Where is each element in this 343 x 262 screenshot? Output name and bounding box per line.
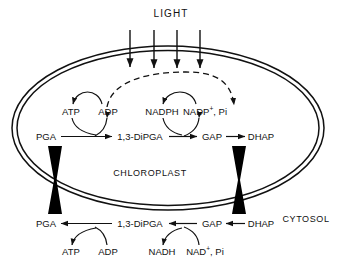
cytosol-dhap-label: DHAP — [248, 218, 274, 229]
cytosol-nad-consumption-arc — [184, 227, 199, 245]
chloroplast-nadp-base: NADP — [183, 106, 209, 117]
cytosol-dipga-label: 1,3-DiPGA — [117, 218, 163, 229]
cytosol-pga-label: PGA — [36, 218, 57, 229]
cytosol-nad-tail: , Pi — [210, 246, 224, 257]
chloroplast-dipga-label: 1,3-DiPGA — [117, 131, 163, 142]
cytosol-nad-label: NAD+, Pi — [186, 245, 224, 257]
light-energy-dashed-arc — [107, 72, 234, 107]
light-arrows — [130, 30, 200, 68]
light-label: LIGHT — [154, 8, 189, 19]
nadp-production-arc — [184, 118, 199, 136]
chloroplast-pga-label: PGA — [36, 131, 57, 142]
adp-to-atp-arc — [73, 92, 102, 104]
chloroplast-compartment-label: CHLOROPLAST — [113, 168, 187, 178]
cytosol-nadh-label: NADH — [149, 246, 176, 257]
cytosol-nadh-production-arc — [163, 228, 182, 245]
nadph-consumption-arc — [163, 118, 182, 135]
cytosol-gap-label: GAP — [202, 218, 222, 229]
chloroplast-atp-label: ATP — [62, 106, 80, 117]
cytosol-adp-consumption-arc — [95, 227, 107, 245]
cytosol-atp-production-arc — [72, 228, 96, 245]
nadp-to-nadph-arc — [163, 92, 196, 104]
chloroplast-shuttle-diagram: LIGHT ATP ADP NADPH NADP+, Pi PGA 1,3-Di… — [0, 0, 343, 262]
cytosol-adp-label: ADP — [98, 246, 118, 257]
chloroplast-nadp-tail: , Pi — [213, 106, 227, 117]
chloroplast-dhap-label: DHAP — [248, 131, 274, 142]
dhap-translocator — [232, 146, 246, 214]
chloroplast-adp-label: ADP — [98, 106, 118, 117]
pga-translocator — [48, 146, 62, 214]
cytosol-atp-label: ATP — [62, 246, 80, 257]
cytosol-compartment-label: CYTOSOL — [282, 214, 329, 224]
chloroplast-nadph-label: NADPH — [145, 106, 178, 117]
diagram-canvas: LIGHT ATP ADP NADPH NADP+, Pi PGA 1,3-Di… — [0, 0, 343, 262]
chloroplast-nadp-label: NADP+, Pi — [183, 105, 227, 117]
cytosol-nad-base: NAD — [186, 246, 206, 257]
atp-consumption-arc — [72, 118, 96, 135]
adp-production-arc — [95, 118, 107, 136]
chloroplast-gap-label: GAP — [202, 131, 222, 142]
